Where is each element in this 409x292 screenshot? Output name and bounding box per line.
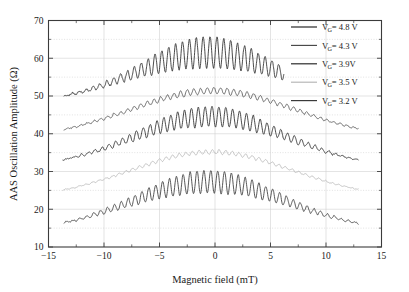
- legend-label-value: = 4.3 V: [332, 41, 359, 51]
- x-tick-label: 15: [377, 251, 387, 261]
- x-tick-label: 5: [268, 251, 273, 261]
- y-tick-label: 50: [34, 91, 44, 101]
- x-axis-title: Magnetic field (mT): [172, 274, 258, 286]
- x-tick-label: −10: [97, 251, 112, 261]
- legend-label-value: = 4.8 V: [332, 22, 359, 32]
- legend-label-value: = 3.5 V: [332, 77, 359, 87]
- legend-label-value: = 3.2 V: [332, 96, 359, 106]
- y-tick-label: 30: [34, 167, 44, 177]
- x-tick-label: 0: [213, 251, 218, 261]
- y-tick-label: 60: [34, 54, 44, 64]
- y-axis-title: AAS Oscillation Amplitude (Ω): [8, 66, 20, 201]
- figure-container: −15−10−5051015 10203040506070 Magnetic f…: [0, 0, 409, 292]
- y-tick-label: 40: [34, 129, 44, 139]
- x-tick-label: −5: [154, 251, 164, 261]
- y-tick-label: 20: [34, 205, 44, 215]
- x-tick-label: 10: [321, 251, 331, 261]
- chart-canvas: −15−10−5051015 10203040506070 Magnetic f…: [0, 0, 409, 292]
- legend-label-value: = 3.9V: [332, 59, 357, 69]
- y-tick-label: 10: [34, 242, 44, 252]
- y-tick-label: 70: [34, 16, 44, 26]
- x-tick-label: −15: [41, 251, 56, 261]
